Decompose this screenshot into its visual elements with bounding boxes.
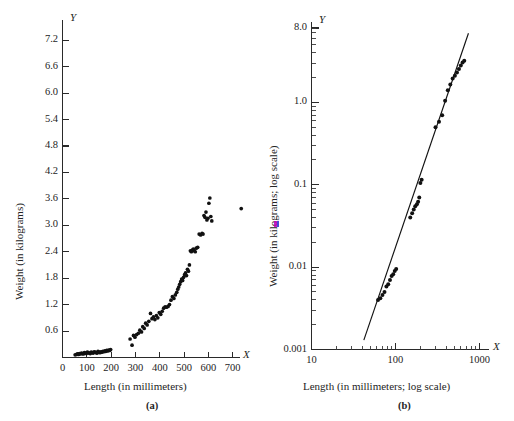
panel-a-x-axis-title: Length (in millimeters) (84, 381, 187, 392)
data-point (145, 323, 149, 327)
data-point (187, 269, 191, 273)
data-point (168, 303, 172, 307)
data-point (239, 207, 243, 211)
data-point (412, 208, 416, 212)
panel-b-y-tick-label: 8.0 (259, 22, 307, 33)
panel-a-y-tick-label: 3.0 (26, 219, 58, 230)
panel-a-y-tick-label: 1.8 (26, 272, 58, 283)
data-point (185, 274, 189, 278)
panel-a-y-tick-label: 6.6 (26, 61, 58, 72)
data-point (440, 113, 444, 117)
data-point (394, 267, 398, 271)
data-point (149, 312, 153, 316)
data-point (443, 99, 447, 103)
panel-a-caption: (a) (146, 401, 158, 412)
data-point (408, 216, 412, 220)
data-point (204, 210, 208, 214)
data-point (188, 263, 192, 267)
panel-b-x-tick-label: 10 (292, 355, 332, 366)
data-point (434, 125, 438, 129)
panel-b-y-tick-label: 0.001 (259, 344, 307, 355)
panel-a-data-points (73, 196, 243, 357)
data-point (420, 178, 424, 182)
panel-a-y-tick-label: 1.2 (26, 299, 58, 310)
data-point (455, 71, 459, 75)
panel-a-y-axis-name: Y (70, 12, 76, 23)
panel-a-y-tick-label: 3.6 (26, 193, 58, 204)
data-point (201, 232, 205, 236)
panel-a-y-tick-label: 6.0 (26, 87, 58, 98)
panel-b-x-axis-name: X (493, 341, 500, 352)
data-point (417, 196, 421, 200)
data-point (207, 201, 211, 205)
data-point (446, 88, 450, 92)
data-point (388, 278, 392, 282)
data-point (437, 120, 441, 124)
panel-b-x-ticks (312, 343, 480, 350)
data-point (209, 215, 213, 219)
data-point (172, 297, 176, 301)
data-point (196, 245, 200, 249)
panel-a: Y X 0.61.21.82.43.03.64.24.85.46.06.67.2… (0, 0, 257, 421)
scan-artifact (274, 221, 279, 227)
panel-b-x-tick-label: 100 (375, 355, 415, 366)
panel-b-x-tick-label: 1000 (459, 355, 499, 366)
panel-b-y-axis-name: Y (319, 14, 325, 25)
data-point (462, 59, 466, 63)
data-point (386, 282, 390, 286)
data-point (210, 219, 214, 223)
data-point (193, 250, 197, 254)
data-point (140, 330, 144, 334)
data-point (142, 327, 146, 331)
data-point (147, 320, 151, 324)
panel-b-y-ticks (312, 28, 319, 350)
data-point (208, 196, 212, 200)
panel-a-y-tick-label: 0.6 (26, 325, 58, 336)
data-point (448, 82, 452, 86)
panel-a-y-tick-label: 7.2 (26, 34, 58, 45)
panel-a-y-tick-label: 2.4 (26, 246, 58, 257)
data-point (156, 316, 160, 320)
data-point (130, 343, 134, 347)
data-point (410, 211, 414, 215)
panel-a-x-axis-name: X (243, 349, 250, 360)
panel-a-y-ticks (63, 40, 69, 331)
panel-b-caption: (b) (398, 401, 411, 412)
panel-a-y-tick-label: 4.8 (26, 140, 58, 151)
panel-b-y-axis-title: Weight (in kilograms; log scale) (268, 146, 279, 287)
figure-container: Y X 0.61.21.82.43.03.64.24.85.46.06.67.2… (0, 0, 514, 421)
panel-a-y-tick-label: 5.4 (26, 114, 58, 125)
panel-a-x-tick-label: 700 (217, 363, 249, 374)
data-point (382, 290, 386, 294)
data-point (109, 348, 113, 352)
panel-b-y-tick-label: 1.0 (259, 96, 307, 107)
panel-b-x-axis-title: Length (in millimeters; log scale) (303, 381, 450, 392)
panel-a-y-tick-label: 4.2 (26, 166, 58, 177)
data-point (128, 337, 132, 341)
panel-a-y-axis-title: Weight (in kilograms) (14, 203, 25, 300)
data-point (416, 200, 420, 204)
panel-b: Y X 0.0010.010.11.08.0 101001000 Weight … (257, 0, 514, 421)
